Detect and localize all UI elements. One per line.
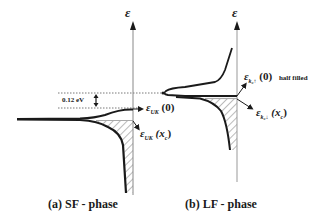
level-label-lower-a: εUK (xc) xyxy=(140,127,171,141)
level-arg: (0) xyxy=(162,101,175,113)
dos-curve-upper xyxy=(17,109,133,119)
energy-axis-label-a: ε xyxy=(125,5,130,21)
level-label-lower-b: εk₀↓ (xc) xyxy=(256,106,287,120)
level-arg: (x xyxy=(271,106,280,118)
level-subscript: UK xyxy=(145,135,153,141)
energy-axis-label-b: ε xyxy=(232,5,237,21)
dos-curve-upper xyxy=(164,48,237,96)
half-filled-note: half filled xyxy=(279,74,308,82)
level-label-upper-a: εUK (0) xyxy=(146,101,174,115)
level-arg-close: ) xyxy=(283,106,287,118)
occupied-states-hatch xyxy=(200,99,237,150)
level-arg: (x xyxy=(156,127,165,139)
level-label-upper-b: εk₀↑ (0) half filled xyxy=(244,70,308,84)
level-arg: (0) xyxy=(259,70,272,82)
level-arg-close: ) xyxy=(167,127,171,139)
caption-b: (b) LF - phase xyxy=(185,197,257,212)
axis-arrow-icon xyxy=(130,21,136,30)
density-of-states-diagram: ε 0.12 eV εUK (0) εUK (xc) (a) SF - phas… xyxy=(0,0,326,220)
level-subscript: k₀↑ xyxy=(249,78,257,84)
level-subscript: k₀↓ xyxy=(261,114,269,120)
gap-annotation: 0.12 eV xyxy=(62,96,84,104)
caption-a: (a) SF - phase xyxy=(48,197,118,212)
panel-b-lf-phase xyxy=(164,21,251,182)
dos-curve-lower xyxy=(17,120,126,194)
panel-a-sf-phase xyxy=(17,21,165,195)
double-arrow-icon xyxy=(94,94,99,107)
axis-arrow-icon xyxy=(234,21,240,30)
level-subscript: UK xyxy=(151,109,159,115)
